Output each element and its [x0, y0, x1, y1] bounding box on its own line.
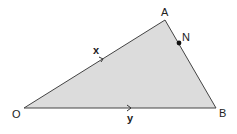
label-N: N	[182, 31, 190, 43]
point-N	[177, 41, 182, 46]
triangle-diagram: O A B N x y	[0, 0, 237, 134]
label-O: O	[12, 108, 21, 120]
label-vector-x: x	[93, 44, 100, 56]
label-A: A	[161, 6, 169, 18]
label-B: B	[219, 107, 226, 119]
label-vector-y: y	[127, 112, 134, 124]
